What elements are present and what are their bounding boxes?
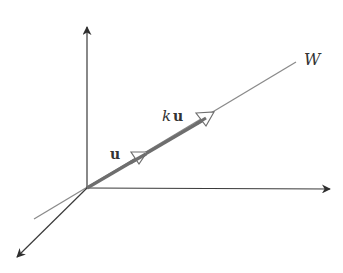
line-w [34,62,296,219]
label-w: W [304,50,322,69]
label-ku-scalar: k [162,107,171,125]
label-ku-vector: u [173,108,183,124]
label-u: u [110,146,120,162]
diagram-svg: W u k u [0,0,343,273]
figure-canvas: W u k u [0,0,343,273]
x-axis [17,188,87,257]
y-axis [87,188,330,189]
